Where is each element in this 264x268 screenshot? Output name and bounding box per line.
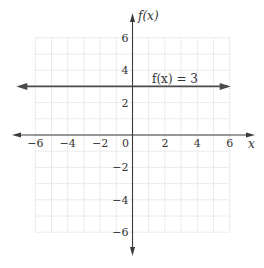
y-tick-label: −2 xyxy=(112,161,128,174)
function-line xyxy=(16,83,230,90)
axes xyxy=(12,13,255,256)
y-tick-label: −4 xyxy=(112,194,128,207)
y-tick-label: 6 xyxy=(122,32,129,45)
y-tick-label: 4 xyxy=(122,64,129,77)
y-tick-label: −6 xyxy=(112,226,128,239)
y-tick-label: 2 xyxy=(122,97,129,110)
y-axis-up-arrow-icon xyxy=(130,13,135,22)
x-tick-label: −2 xyxy=(92,137,108,150)
x-tick-label: −6 xyxy=(27,137,43,150)
x-axis-label: x xyxy=(248,137,255,151)
line-left-arrow-icon xyxy=(16,83,27,90)
x-tick-label: 4 xyxy=(194,137,201,150)
x-tick-label: −4 xyxy=(60,137,76,150)
line-right-arrow-icon xyxy=(220,83,231,90)
x-tick-label: 0 xyxy=(122,137,129,150)
y-axis-label: f(x) xyxy=(137,9,159,23)
x-axis-left-arrow-icon xyxy=(12,133,21,138)
y-axis-down-arrow-icon xyxy=(130,247,135,256)
x-tick-label: 6 xyxy=(226,137,233,150)
function-label: f(x) = 3 xyxy=(152,72,198,86)
x-tick-label: 2 xyxy=(161,137,168,150)
function-graph: −6−4−20246642−2−4−6 x f(x) f(x) = 3 xyxy=(0,0,264,268)
